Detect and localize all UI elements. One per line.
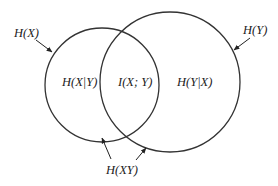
label-h-y: H(Y) [242, 23, 267, 37]
region-label-h-x-given-y: H(X|Y) [61, 75, 97, 89]
arrow-h-xy-right-icon [136, 148, 146, 160]
label-h-xy: H(XY) [105, 163, 138, 177]
arrow-h-x-icon [36, 40, 52, 52]
venn-diagram: H(X|Y) I(X; Y) H(Y|X) H(X) H(Y) H(XY) [0, 0, 278, 186]
region-label-mutual-information: I(X; Y) [117, 75, 152, 89]
label-h-x: H(X) [13, 26, 39, 40]
arrow-h-y-icon [234, 38, 250, 50]
region-label-h-y-given-x: H(Y|X) [176, 75, 212, 89]
